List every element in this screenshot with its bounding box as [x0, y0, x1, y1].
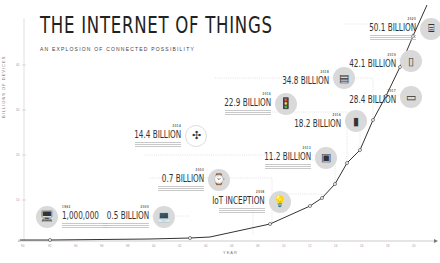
svg-text:90: 90: [21, 244, 25, 248]
milestone-value: IoT INCEPTION: [212, 194, 265, 207]
desktop-computer-icon: 🖥: [36, 206, 58, 228]
door-lock-icon: ⌸: [420, 18, 440, 40]
wind-turbine-icon: ✣: [185, 125, 207, 147]
milestone-value: 34.8 BILLION: [282, 74, 329, 87]
svg-text:16: 16: [360, 244, 364, 248]
milestone-2020: 2020 50.1 BILLION ⌸: [345, 17, 440, 40]
svg-text:04: 04: [204, 244, 208, 248]
tablet-icon: ▭: [400, 86, 422, 108]
svg-text:02: 02: [178, 244, 182, 248]
milestone-value: 22.9 BILLION: [224, 96, 271, 109]
milestone-value: 18.2 BILLION: [294, 117, 341, 130]
milestone-value: 0.5 BILLION: [107, 209, 149, 222]
milestone-value: 42.1 BILLION: [349, 57, 396, 70]
milestone-2016b: 2016 22.9 BILLION 🚦: [200, 92, 297, 115]
svg-text:18: 18: [386, 244, 390, 248]
milestone-value: 50.1 BILLION: [369, 21, 416, 34]
milestone-2013: 2013 11.2 BILLION ▣: [240, 146, 337, 169]
milestone-2014: 2014 14.4 BILLION ✣: [110, 124, 207, 147]
svg-text:20: 20: [16, 153, 20, 157]
milestone-value: 14.4 BILLION: [134, 128, 181, 141]
oven-icon: ▣: [315, 147, 337, 169]
milestone-2017: 2017 28.4 BILLION ▭: [325, 86, 422, 108]
svg-text:08: 08: [256, 244, 260, 248]
traffic-light-icon: 🚦: [275, 93, 297, 115]
laptop-icon: 💻: [153, 206, 175, 228]
svg-text:96: 96: [100, 244, 104, 248]
milestone-value: 0.7 BILLION: [162, 172, 204, 185]
svg-text:98: 98: [126, 244, 130, 248]
svg-text:10: 10: [282, 244, 286, 248]
smart-fridge-icon: ▯: [400, 50, 422, 72]
svg-text:94: 94: [74, 244, 78, 248]
svg-text:12: 12: [308, 244, 312, 248]
svg-text:00: 00: [152, 244, 156, 248]
lightbulb-icon: 💡: [269, 191, 291, 213]
phone-watch-icon: ⌚: [208, 169, 230, 191]
thermostat-icon: ▮: [345, 110, 367, 132]
svg-text:20: 20: [412, 244, 416, 248]
milestone-iot-inception: 2008 IoT INCEPTION 💡: [185, 190, 291, 213]
milestone-2019: 2019 42.1 BILLION ▯: [325, 50, 422, 72]
svg-text:10: 10: [16, 198, 20, 202]
svg-text:06: 06: [230, 244, 234, 248]
svg-text:30: 30: [16, 108, 20, 112]
milestone-2003: 2003 0.7 BILLION ⌚: [140, 168, 230, 191]
svg-text:14: 14: [334, 244, 338, 248]
svg-text:92: 92: [48, 244, 52, 248]
milestone-value: 28.4 BILLION: [349, 93, 396, 106]
milestone-value: 11.2 BILLION: [264, 150, 311, 163]
svg-text:40: 40: [16, 63, 20, 67]
milestone-2000: 2000 0.5 BILLION 💻: [85, 205, 175, 228]
